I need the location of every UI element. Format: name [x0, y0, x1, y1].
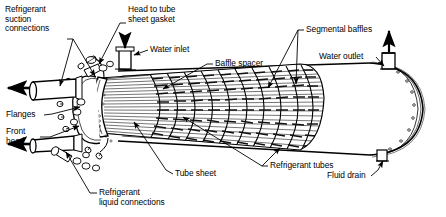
label-segmental-baffles: Segmental baffles	[306, 25, 372, 35]
label-head-to-tube-sheet-gasket: Head to tube sheet gasket	[128, 5, 175, 24]
label-baffle-spacer: Baffle spacer	[215, 59, 263, 69]
fluid-drain-nozzle	[376, 150, 389, 161]
water-inlet-nozzle	[115, 47, 136, 70]
label-refrigerant-suction-connections: Refrigerant suction connections	[5, 5, 49, 34]
label-tube-sheet: Tube sheet	[175, 169, 216, 179]
label-refrigerant-tubes: Refrigerant tubes	[270, 161, 333, 171]
tube-bundle	[100, 64, 324, 151]
label-water-inlet: Water inlet	[150, 45, 189, 55]
label-flanges: Flanges	[6, 110, 35, 120]
water-outlet-nozzle	[380, 53, 397, 69]
diagram-artwork	[0, 0, 446, 217]
heat-exchanger-diagram: Refrigerant suction connections Head to …	[0, 0, 446, 217]
rear-bonnet-head	[370, 62, 425, 157]
label-front-head: Front head	[6, 127, 25, 146]
label-water-outlet: Water outlet	[319, 52, 363, 62]
label-fluid-drain: Fluid drain	[327, 171, 366, 181]
label-refrigerant-liquid-connections: Refrigerant liquid connections	[99, 188, 165, 207]
